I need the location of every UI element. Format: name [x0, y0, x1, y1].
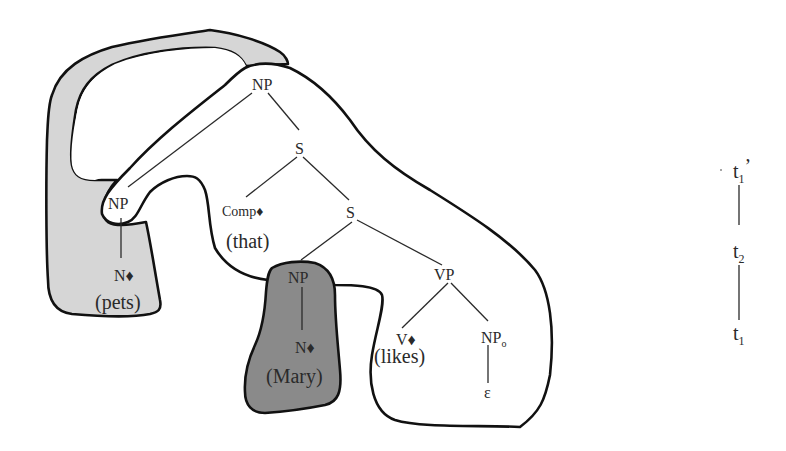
node-v-word: (likes) — [374, 345, 425, 368]
derivation-t2: t2 — [733, 240, 745, 266]
node-n-subj-word: (Mary) — [266, 365, 323, 388]
node-s-upper: S — [295, 140, 304, 157]
syntax-diagram: NP S Comp♦ (that) S NP N♦ (pets) NP N♦ (… — [0, 0, 786, 451]
node-comp: Comp♦ — [222, 204, 263, 219]
node-comp-word: (that) — [226, 230, 269, 253]
node-s-lower: S — [346, 204, 355, 221]
node-n-left-word: (pets) — [95, 291, 141, 314]
anchor-diamond-icon: ♦ — [256, 204, 263, 219]
node-n-left: N♦ — [114, 267, 134, 284]
node-np-left: NP — [108, 195, 129, 212]
node-epsilon: ε — [484, 384, 491, 401]
stray-dot — [720, 169, 722, 171]
anchor-diamond-icon: ♦ — [126, 267, 134, 284]
node-vp: VP — [434, 266, 455, 283]
node-n-subj: N♦ — [295, 339, 315, 356]
node-np-subj: NP — [288, 269, 309, 286]
anchor-diamond-icon: ♦ — [307, 339, 315, 356]
node-np-top: NP — [252, 76, 273, 93]
derivation-t1: t1 — [733, 322, 745, 348]
derivation-t1-prime: t1’ — [733, 155, 751, 186]
